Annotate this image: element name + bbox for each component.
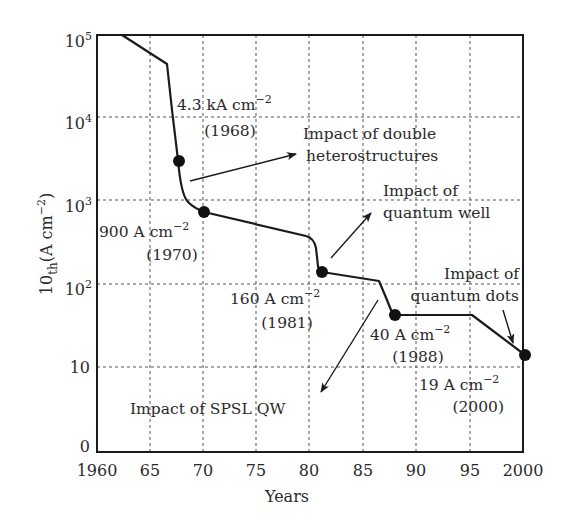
y-tick-10: 10	[70, 358, 90, 377]
marker-2000	[519, 349, 531, 361]
annotation-spsl-qw: Impact of SPSL QW	[130, 400, 285, 418]
label-1988-year: (1988)	[392, 348, 444, 366]
arrow-spsl-qw	[321, 300, 378, 392]
x-tick-95: 95	[460, 461, 480, 480]
label-2000-year: (2000)	[452, 398, 504, 416]
arrow-quantum-dots	[503, 310, 513, 343]
annotation-quantum-dots-line1: Impact of	[444, 265, 520, 283]
x-tick-70: 70	[193, 461, 213, 480]
arrow-double-heterostructures	[190, 154, 296, 181]
chart-canvas: 105 104 103 102 10 0 10th(A cm−2) 1960 6…	[0, 0, 564, 532]
marker-1988	[389, 309, 401, 321]
x-tick-75: 75	[246, 461, 266, 480]
y-axis-label: 10th(A cm−2)	[35, 193, 60, 295]
x-tick-80: 80	[299, 461, 319, 480]
marker-labels: 4.3 kA cm−2 (1968) 900 A cm−2 (1970) 160…	[99, 93, 504, 416]
y-tick-1e4: 104	[65, 112, 92, 133]
label-1970-year: (1970)	[146, 246, 198, 264]
y-tick-0: 0	[80, 437, 90, 456]
label-1970-value: 900 A cm−2	[99, 220, 189, 241]
marker-1970	[198, 206, 210, 218]
annotation-double-hetero-line1: Impact of double	[303, 125, 436, 143]
annotation-double-hetero-line2: heterostructures	[306, 147, 438, 165]
x-tick-90: 90	[406, 461, 426, 480]
marker-1981	[316, 266, 328, 278]
label-2000-value: 19 A cm−2	[419, 373, 499, 394]
y-tick-1e3: 103	[65, 195, 92, 216]
x-tick-85: 85	[353, 461, 373, 480]
x-tick-1960: 1960	[77, 461, 118, 480]
label-1988-value: 40 A cm−2	[370, 323, 450, 344]
arrow-quantum-well	[331, 213, 371, 258]
x-tick-65: 65	[140, 461, 160, 480]
label-1981-value: 160 A cm−2	[230, 287, 320, 308]
x-axis-ticks: 1960 65 70 75 80 85 90 95 2000	[77, 461, 544, 480]
data-markers	[173, 155, 531, 361]
y-tick-1e5: 105	[65, 30, 92, 51]
x-tick-2000: 2000	[503, 461, 544, 480]
y-tick-1e2: 102	[65, 278, 92, 299]
marker-1968	[173, 155, 185, 167]
threshold-curve	[122, 35, 525, 355]
label-1981-year: (1981)	[261, 314, 313, 332]
label-1968-value: 4.3 kA cm−2	[177, 93, 272, 114]
y-axis-ticks: 105 104 103 102 10 0	[65, 30, 92, 456]
x-axis-label: Years	[264, 487, 309, 506]
annotation-quantum-well-line1: Impact of	[383, 182, 459, 200]
annotation-quantum-well-line2: quantum well	[383, 204, 490, 222]
label-1968-year: (1968)	[204, 122, 256, 140]
annotation-quantum-dots-line2: quantum dots	[411, 287, 519, 305]
